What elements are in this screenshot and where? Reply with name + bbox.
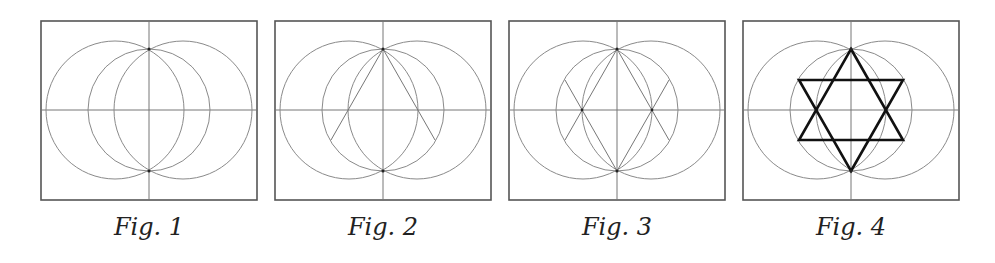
figure-1 [40,20,258,201]
figure-3-caption: Fig. 3 [508,212,726,242]
figure-4-drawing [742,20,960,201]
top-point [849,47,852,50]
right-point [651,109,654,112]
top-point [615,47,618,50]
figure-4-caption: Fig. 4 [742,212,960,242]
figure-2-drawing [274,20,492,201]
bottom-point [381,169,384,172]
figure-4 [742,20,960,201]
figure-3 [508,20,726,201]
bottom-point [849,169,852,172]
figure-3-drawing [508,20,726,201]
bottom-point [615,169,618,172]
left-point [581,109,584,112]
line-top-left [331,49,383,140]
top-point [147,47,150,50]
figure-1-drawing [40,20,258,201]
figure-2 [274,20,492,201]
line-top-right [383,49,435,140]
figure-2-caption: Fig. 2 [274,212,492,242]
bottom-point [147,169,150,172]
top-point [381,47,384,50]
figure-1-caption: Fig. 1 [40,212,258,242]
